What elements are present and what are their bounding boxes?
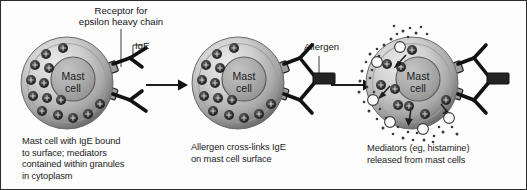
nucleus-label-line-1: Mast bbox=[226, 71, 262, 83]
granule bbox=[37, 106, 47, 116]
granule bbox=[201, 60, 211, 70]
vesicle bbox=[372, 57, 383, 68]
granule bbox=[208, 106, 218, 116]
panel-2-caption: Allergen cross-links IgE on mast cell su… bbox=[191, 142, 343, 165]
granule bbox=[210, 78, 220, 88]
mast-cell-nucleus-label: Mast cell bbox=[226, 71, 262, 94]
granule bbox=[407, 45, 417, 55]
granule bbox=[56, 95, 66, 105]
nucleus-label-line-2: cell bbox=[55, 83, 91, 95]
ige-antibody-icon bbox=[284, 81, 316, 113]
panel-allergen-crosslinks-ige: Allergen Allergen cross-links IgE on mas… bbox=[179, 1, 353, 190]
granule bbox=[197, 75, 207, 85]
panel-3-caption: Mediators (eg, histamine) released from … bbox=[367, 143, 522, 166]
vesicle bbox=[418, 124, 429, 135]
granule bbox=[239, 113, 249, 123]
granule bbox=[227, 95, 237, 105]
vesicle bbox=[395, 42, 406, 53]
crosslinked-ige-group bbox=[458, 45, 490, 113]
crosslinked-ige-group bbox=[284, 45, 316, 113]
receptor-label: Receptor for epsilon heavy chain bbox=[63, 5, 179, 28]
nucleus-label-line-1: Mast bbox=[55, 71, 91, 83]
granule bbox=[266, 99, 276, 109]
granule bbox=[420, 109, 430, 119]
granule bbox=[58, 43, 68, 53]
granule bbox=[39, 78, 49, 88]
granule bbox=[53, 110, 63, 120]
vesicle bbox=[368, 95, 379, 106]
granule bbox=[42, 93, 52, 103]
nucleus-label-line-1: Mast bbox=[400, 71, 436, 83]
granule bbox=[382, 59, 392, 69]
granule bbox=[30, 60, 40, 70]
mast-cell-degranulation-figure: Receptor for epsilon heavy chain IgE Mas… bbox=[0, 0, 527, 190]
granule bbox=[229, 43, 239, 53]
mast-cell-nucleus-label: Mast cell bbox=[400, 71, 436, 94]
granule bbox=[215, 63, 225, 73]
granule bbox=[393, 100, 403, 110]
panel-1-caption: Mast cell with IgE bound to surface; med… bbox=[22, 136, 172, 182]
granule bbox=[212, 49, 222, 59]
granule bbox=[26, 75, 36, 85]
granule bbox=[213, 93, 223, 103]
granule bbox=[404, 101, 414, 111]
panel-mast-cell-with-ige: Receptor for epsilon heavy chain IgE Mas… bbox=[1, 1, 179, 190]
ige-antibody-icon bbox=[458, 81, 490, 113]
granule bbox=[254, 109, 264, 119]
vesicle bbox=[444, 113, 455, 124]
granule bbox=[95, 99, 105, 109]
allergen-icon bbox=[487, 73, 509, 84]
ige-antibody-icon bbox=[458, 45, 490, 78]
granule bbox=[28, 91, 38, 101]
granule bbox=[68, 113, 78, 123]
nucleus-label-line-2: cell bbox=[226, 83, 262, 95]
panel-mediators-released: Mediators (eg, histamine) released from … bbox=[353, 1, 527, 190]
ige-antibody-icon bbox=[113, 91, 146, 111]
granule bbox=[376, 80, 386, 90]
granule bbox=[224, 110, 234, 120]
ige-label: IgE bbox=[135, 40, 149, 51]
granule bbox=[199, 91, 209, 101]
nucleus-label-line-2: cell bbox=[400, 83, 436, 95]
granule bbox=[83, 109, 93, 119]
ige-antibody-group bbox=[113, 48, 146, 111]
granule bbox=[41, 49, 51, 59]
mast-cell-nucleus-label: Mast cell bbox=[55, 71, 91, 94]
granule bbox=[390, 84, 400, 94]
granule bbox=[441, 95, 451, 105]
granule bbox=[44, 63, 54, 73]
allergen-label: Allergen bbox=[304, 41, 339, 52]
